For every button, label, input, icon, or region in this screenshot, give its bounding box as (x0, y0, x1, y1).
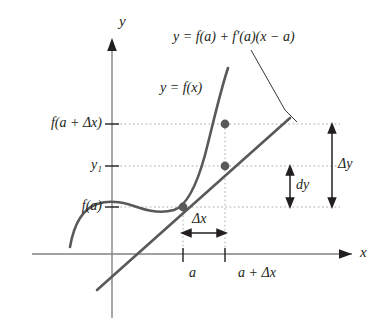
delta-y-arrow (328, 124, 335, 207)
x-axis-arrowhead (339, 249, 352, 259)
tangent-label-leader (251, 50, 297, 122)
marked-points (179, 120, 230, 212)
point-tangency-a-fa (179, 203, 188, 212)
dy-label: dy (296, 178, 309, 192)
differential-approximation-figure: y x f(a + Δx) y₁ f(a) a a + Δx y = f(x) … (0, 0, 386, 331)
y-tick-label-fa: f(a) (4, 199, 102, 213)
y-axis-label: y (119, 14, 126, 29)
delta-x-arrow (182, 229, 226, 236)
dy-arrow (286, 166, 293, 207)
curve-label: y = f(x) (160, 81, 202, 95)
x-tick-label-a: a (170, 266, 196, 280)
point-curve-fa-plus-dx (221, 120, 230, 129)
y-tick-label-fa-plus-dx: f(a + Δx) (4, 116, 102, 130)
x-axis-ticks (183, 248, 225, 262)
y-axis-arrowhead (107, 38, 117, 51)
point-tangent-y1 (221, 162, 230, 171)
y-tick-label-y1: y₁ (4, 158, 102, 172)
delta-y-label: Δy (338, 157, 352, 171)
x-axis-label: x (360, 245, 367, 260)
delta-x-label: Δx (192, 212, 206, 226)
x-tick-label-a-plus-dx: a + Δx (200, 266, 276, 280)
tangent-label: y = f(a) + f′(a)(x − a) (173, 30, 295, 44)
